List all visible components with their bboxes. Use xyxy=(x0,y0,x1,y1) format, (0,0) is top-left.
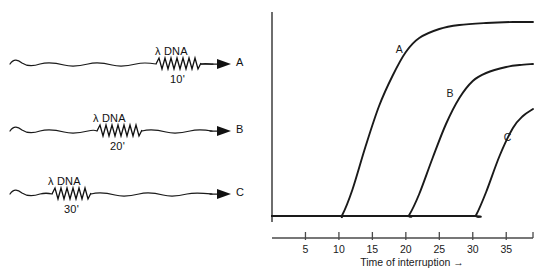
x-tick-label: 5 xyxy=(303,243,309,255)
strand-row-b: λ DNA 20' B xyxy=(0,105,262,165)
x-tick-label: 35 xyxy=(500,243,512,255)
time-label-c: 30' xyxy=(64,204,79,215)
x-tick-label: 25 xyxy=(433,243,445,255)
time-label-a: 10' xyxy=(170,74,185,85)
strand-drawing-b xyxy=(0,105,262,165)
strand-drawing-c xyxy=(0,168,262,228)
curve-label-a: A xyxy=(396,43,403,55)
chart-svg: 5101520253035 ABC Infectious centers → T… xyxy=(262,0,541,274)
endpoint-label-a: A xyxy=(236,57,244,68)
endpoint-label-b: B xyxy=(236,124,244,135)
strand-row-c: λ DNA 30' C xyxy=(0,168,262,228)
x-axis-tick-labels: 5101520253035 xyxy=(303,243,513,255)
lambda-dna-label-b: λ DNA xyxy=(93,113,126,124)
x-tick-label: 20 xyxy=(400,243,412,255)
lambda-dna-label-a: λ DNA xyxy=(155,46,188,57)
arrow-head-c xyxy=(217,189,231,199)
strand-row-a: λ DNA 10' A xyxy=(0,38,262,98)
x-tick-label: 15 xyxy=(367,243,379,255)
curve-label-b: B xyxy=(447,87,454,99)
figure-container: λ DNA 10' A λ DNA 20' B xyxy=(0,0,541,274)
time-label-b: 20' xyxy=(110,141,125,152)
curve-c xyxy=(272,109,533,217)
endpoint-label-c: C xyxy=(236,187,244,198)
arrow-head-b xyxy=(217,126,231,136)
curve-label-c: C xyxy=(504,131,512,143)
strand-drawing-a xyxy=(0,38,262,98)
arrow-head-a xyxy=(217,59,231,69)
infectious-centers-chart: 5101520253035 ABC Infectious centers → T… xyxy=(262,0,541,274)
x-axis-title: Time of interruption → xyxy=(360,256,463,268)
x-tick-label: 10 xyxy=(333,243,345,255)
curve-b xyxy=(272,64,533,217)
dna-strand-diagram: λ DNA 10' A λ DNA 20' B xyxy=(0,0,262,274)
lambda-dna-label-c: λ DNA xyxy=(48,176,81,187)
x-tick-label: 30 xyxy=(467,243,479,255)
curve-letter-labels: ABC xyxy=(396,43,512,143)
